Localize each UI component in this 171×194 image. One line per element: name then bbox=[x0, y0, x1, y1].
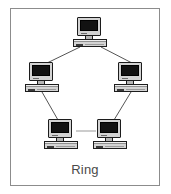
screen-icon bbox=[121, 65, 139, 76]
drive-slot-icon bbox=[117, 89, 124, 91]
monitor-icon bbox=[29, 62, 53, 81]
case-panel-line bbox=[126, 89, 145, 90]
monitor-control-nub-icon bbox=[122, 78, 128, 79]
case-panel-line bbox=[105, 146, 124, 147]
monitor-control-nub-icon bbox=[81, 33, 87, 34]
monitor-icon bbox=[77, 17, 101, 36]
monitor-control-nub-icon bbox=[101, 135, 107, 136]
case-top-edge bbox=[45, 142, 77, 144]
computer-case-icon bbox=[73, 39, 107, 47]
monitor-icon bbox=[97, 119, 121, 138]
case-top-edge bbox=[115, 85, 147, 87]
computer-node-bottom-left[interactable] bbox=[44, 119, 78, 149]
monitor-control-nub-icon bbox=[33, 78, 39, 79]
screen-icon bbox=[32, 65, 50, 76]
screen-icon bbox=[100, 122, 118, 133]
screen-icon bbox=[51, 122, 69, 133]
case-top-edge bbox=[26, 85, 58, 87]
drive-slot-icon bbox=[76, 44, 83, 46]
computer-node-top[interactable] bbox=[73, 17, 107, 47]
drive-slot-icon bbox=[28, 89, 35, 91]
computer-node-left[interactable] bbox=[25, 62, 59, 92]
case-top-edge bbox=[74, 40, 106, 42]
drive-slot-icon bbox=[96, 146, 103, 148]
drive-slot-icon bbox=[47, 146, 54, 148]
monitor-icon bbox=[48, 119, 72, 138]
case-panel-line bbox=[37, 89, 56, 90]
case-panel-line bbox=[85, 44, 104, 45]
computer-case-icon bbox=[44, 141, 78, 149]
screen-icon bbox=[80, 20, 98, 31]
case-panel-line bbox=[56, 146, 75, 147]
case-top-edge bbox=[94, 142, 126, 144]
figure-caption: Ring bbox=[10, 162, 160, 177]
computer-case-icon bbox=[93, 141, 127, 149]
monitor-control-nub-icon bbox=[52, 135, 58, 136]
computer-case-icon bbox=[114, 84, 148, 92]
computer-node-bottom-right[interactable] bbox=[93, 119, 127, 149]
monitor-icon bbox=[118, 62, 142, 81]
computer-node-right[interactable] bbox=[114, 62, 148, 92]
computer-case-icon bbox=[25, 84, 59, 92]
ring-topology-figure: Ring bbox=[0, 0, 171, 194]
